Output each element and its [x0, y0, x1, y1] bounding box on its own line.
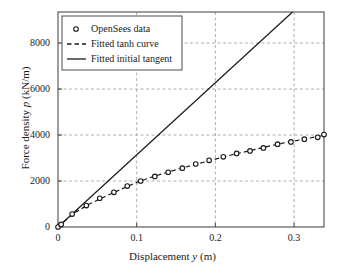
legend-label-3: Fitted initial tangent [91, 53, 172, 64]
x-tick-label: 0 [38, 232, 78, 243]
data-point-marker [153, 174, 158, 179]
y-axis-label-symbol: p [19, 102, 31, 108]
x-axis-label-post: (m) [197, 250, 216, 262]
y-tick-label: 4000 [0, 129, 50, 140]
data-point-marker [322, 132, 327, 137]
legend-label-1: OpenSees data [91, 23, 150, 34]
data-point-marker [234, 151, 239, 156]
legend-circle-marker-icon [74, 27, 79, 32]
data-point-marker [97, 196, 102, 201]
data-point-marker [193, 162, 198, 167]
y-tick-label: 2000 [0, 175, 50, 186]
data-point-marker [180, 166, 185, 171]
figure-container: Force density p (kN/m) Displacement y (m… [0, 0, 345, 275]
data-point-marker [302, 137, 307, 142]
legend-label-2: Fitted tanh curve [91, 38, 159, 49]
data-point-marker [125, 184, 130, 189]
x-axis-label: Displacement y (m) [0, 250, 345, 262]
data-point-marker [84, 203, 89, 208]
data-point-marker [112, 190, 117, 195]
data-point-marker [315, 135, 320, 140]
x-tick-label: 0.2 [195, 232, 235, 243]
y-tick-label: 0 [0, 221, 50, 232]
y-tick-label: 6000 [0, 83, 50, 94]
x-tick-label: 0.3 [274, 232, 314, 243]
data-point-marker [207, 158, 212, 163]
y-tick-label: 8000 [0, 37, 50, 48]
data-point-marker [275, 142, 280, 147]
data-point-marker [166, 170, 171, 175]
data-point-marker [70, 212, 75, 217]
data-point-marker [261, 146, 266, 151]
data-point-marker [59, 222, 64, 227]
data-point-marker [221, 155, 226, 160]
data-point-marker [248, 149, 253, 154]
x-tick-label: 0.1 [117, 232, 157, 243]
data-point-marker [138, 179, 143, 184]
data-point-marker [289, 140, 294, 145]
x-axis-label-pre: Displacement [129, 250, 192, 262]
